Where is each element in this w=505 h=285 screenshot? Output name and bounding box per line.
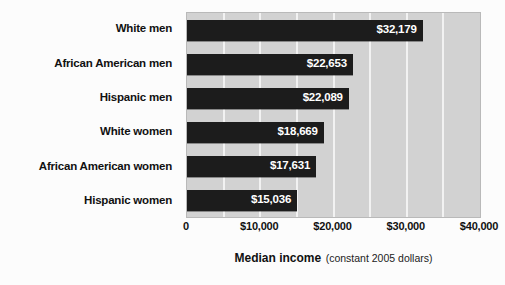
x-axis: 0 $10,000 $20,000 $30,000 $40,000 (186, 220, 481, 238)
bar-row: $22,089 (187, 81, 480, 115)
x-axis-title: Median income (constant 2005 dollars) (186, 248, 481, 266)
x-tick-label: 0 (183, 220, 189, 232)
category-label: Hispanic women (84, 195, 172, 207)
x-tick-label: $10,000 (240, 220, 278, 232)
bar-row: $18,669 (187, 115, 480, 149)
category-row: Hispanic women (0, 184, 180, 218)
plot-area: $32,179 $22,653 $22,089 $18,669 (186, 12, 481, 218)
x-tick-label: $30,000 (387, 220, 425, 232)
category-label: African American men (54, 58, 172, 70)
bar-value-label: $15,036 (251, 194, 291, 206)
bar: $17,631 (187, 156, 316, 177)
bar: $18,669 (187, 122, 324, 143)
bar-row: $17,631 (187, 149, 480, 183)
bar-value-label: $18,669 (278, 126, 318, 138)
category-axis: White men African American men Hispanic … (0, 12, 180, 218)
bar-row: $32,179 (187, 13, 480, 47)
category-row: White men (0, 12, 180, 46)
category-label: White women (100, 126, 172, 138)
bar: $22,089 (187, 88, 349, 109)
category-label: Hispanic men (100, 92, 172, 104)
x-tick-label: $20,000 (313, 220, 351, 232)
bar-row: $15,036 (187, 183, 480, 217)
bar-value-label: $17,631 (270, 160, 310, 172)
bar-chart: White men African American men Hispanic … (0, 0, 505, 285)
x-axis-title-main: Median income (235, 251, 322, 265)
bar: $22,653 (187, 54, 353, 75)
bar-value-label: $22,653 (307, 58, 347, 70)
bar-series: $32,179 $22,653 $22,089 $18,669 (187, 13, 480, 217)
category-label: African American women (39, 161, 172, 173)
bar: $32,179 (187, 20, 423, 41)
bar-row: $22,653 (187, 47, 480, 81)
category-label: White men (116, 23, 172, 35)
x-axis-title-sub: (constant 2005 dollars) (326, 252, 433, 264)
category-row: African American men (0, 46, 180, 80)
bar: $15,036 (187, 190, 297, 211)
category-row: Hispanic men (0, 81, 180, 115)
category-row: White women (0, 115, 180, 149)
bar-value-label: $22,089 (303, 92, 343, 104)
bar-value-label: $32,179 (377, 24, 417, 36)
category-row: African American women (0, 149, 180, 183)
x-tick-label: $40,000 (460, 220, 498, 232)
